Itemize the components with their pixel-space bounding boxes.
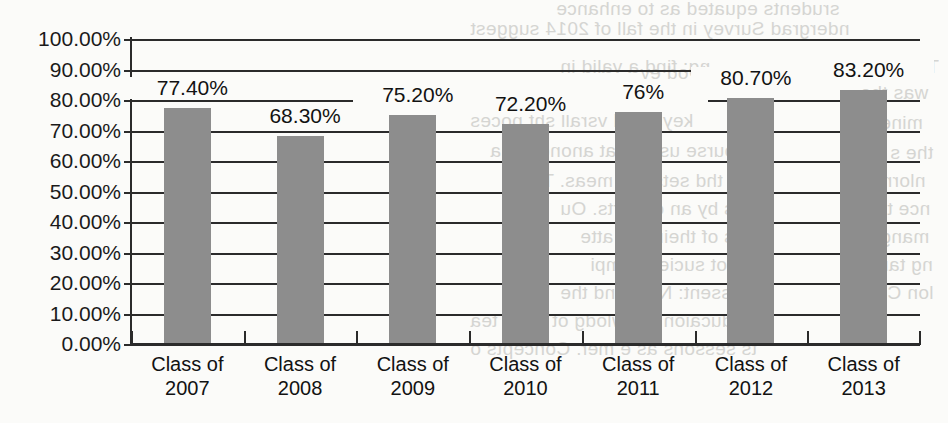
category-label-line1: Class of bbox=[469, 353, 582, 377]
x-axis-category-label: Class of2011 bbox=[582, 353, 695, 400]
x-axis-tick bbox=[244, 331, 246, 345]
y-axis-tick-label: 10.00% bbox=[0, 303, 121, 324]
bar-value-label: 68.30% bbox=[240, 105, 370, 127]
x-axis-category-label: Class of2008 bbox=[244, 353, 357, 400]
category-label-line2: 2010 bbox=[469, 377, 582, 401]
y-axis-tick-label: 90.00% bbox=[0, 59, 121, 80]
y-axis-tick-label: 70.00% bbox=[0, 120, 121, 141]
bar bbox=[164, 108, 211, 344]
bar bbox=[277, 136, 324, 344]
x-axis-end-tick bbox=[919, 331, 921, 345]
category-label-line1: Class of bbox=[131, 353, 244, 377]
x-axis-tick bbox=[131, 331, 133, 345]
x-axis-category-label: Class of2007 bbox=[131, 353, 244, 400]
y-axis-tick-label: 30.00% bbox=[0, 242, 121, 263]
x-axis-tick bbox=[582, 331, 584, 345]
x-axis-category-label: Class of2013 bbox=[807, 353, 920, 400]
bar-value-label: 76% bbox=[578, 81, 708, 103]
bar-chart: 100.00%90.00%80.00%70.00%60.00%50.00%40.… bbox=[0, 0, 948, 423]
x-axis-category-label: Class of2012 bbox=[695, 353, 808, 400]
y-axis-tick-label: 20.00% bbox=[0, 272, 121, 293]
bar-value-label: 80.70% bbox=[691, 67, 821, 89]
x-axis-tick bbox=[695, 331, 697, 345]
bar bbox=[615, 112, 662, 344]
x-axis-category-label: Class of2009 bbox=[356, 353, 469, 400]
category-label-line2: 2011 bbox=[582, 377, 695, 401]
x-axis-category-label: Class of2010 bbox=[469, 353, 582, 400]
bar bbox=[389, 115, 436, 344]
scanned-chart-page: srudents equated as to enhancendergrad S… bbox=[0, 0, 948, 423]
y-axis-tick-label: 60.00% bbox=[0, 150, 121, 171]
bar bbox=[727, 98, 774, 344]
bar-value-label: 77.40% bbox=[127, 77, 257, 99]
y-axis-tick-label: 80.00% bbox=[0, 89, 121, 110]
y-axis-tick-label: 100.00% bbox=[0, 28, 121, 49]
category-label-line2: 2013 bbox=[807, 377, 920, 401]
gridline bbox=[131, 39, 920, 41]
bar-value-label: 72.20% bbox=[466, 93, 596, 115]
y-axis-tick-label: 50.00% bbox=[0, 181, 121, 202]
y-axis-tick-label: 40.00% bbox=[0, 211, 121, 232]
category-label-line2: 2008 bbox=[244, 377, 357, 401]
x-axis-tick bbox=[469, 331, 471, 345]
category-label-line1: Class of bbox=[244, 353, 357, 377]
category-label-line2: 2009 bbox=[356, 377, 469, 401]
category-label-line1: Class of bbox=[582, 353, 695, 377]
bar bbox=[502, 124, 549, 344]
bar-value-label: 83.20% bbox=[804, 59, 934, 81]
category-label-line2: 2007 bbox=[131, 377, 244, 401]
category-label-line1: Class of bbox=[695, 353, 808, 377]
bar-value-label: 75.20% bbox=[353, 84, 483, 106]
x-axis-tick bbox=[356, 331, 358, 345]
x-axis-line bbox=[130, 343, 921, 345]
bar bbox=[840, 90, 887, 344]
y-axis-tick-label: 0.00% bbox=[0, 333, 121, 354]
category-label-line1: Class of bbox=[807, 353, 920, 377]
category-label-line1: Class of bbox=[356, 353, 469, 377]
category-label-line2: 2012 bbox=[695, 377, 808, 401]
x-axis-tick bbox=[807, 331, 809, 345]
